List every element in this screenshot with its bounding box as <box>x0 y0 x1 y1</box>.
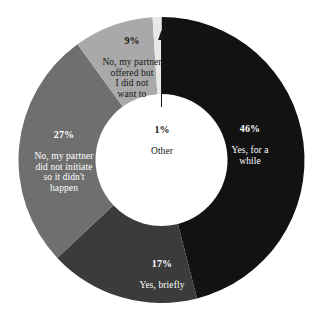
donut-chart: 46% Yes, for a while 17% Yes, briefly 27… <box>0 0 326 319</box>
donut-chart-svg <box>0 0 326 319</box>
